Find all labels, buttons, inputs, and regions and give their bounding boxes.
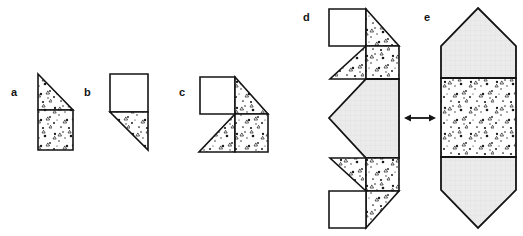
panel-b-shape: [110, 74, 148, 150]
d-triangle-bottom-right: [366, 191, 399, 228]
c-square-top-left: [200, 77, 235, 114]
a-triangle-top: [38, 74, 73, 110]
panel-a-shape: [38, 74, 73, 150]
e-pentagon-top: [441, 8, 516, 78]
panel-d-net: [329, 9, 399, 228]
figure-label-a: a: [11, 87, 17, 98]
double-arrow-icon: [404, 115, 436, 122]
geometry-figure-canvas: [0, 0, 523, 236]
c-square-bottom-right: [235, 114, 268, 152]
d-square-lower-right: [366, 158, 399, 191]
e-pentagon-bottom: [441, 157, 516, 228]
panel-c-shape: [199, 77, 268, 152]
c-triangle-bottom-left: [199, 114, 235, 152]
d-triangle-lower-left: [330, 158, 366, 191]
d-triangle-top-right: [366, 9, 399, 46]
figure-root: a b c d e: [0, 0, 523, 236]
d-square-bottom-left: [329, 191, 366, 228]
d-triangle-upper-left: [330, 46, 366, 79]
panel-e-solid: [441, 8, 516, 228]
a-square-bottom: [38, 110, 73, 150]
d-square-top-left: [329, 9, 366, 46]
e-rectangle-middle: [441, 78, 516, 157]
d-pentagon-middle: [329, 79, 399, 158]
figure-label-d: d: [303, 12, 310, 23]
figure-label-e: e: [424, 12, 430, 23]
d-square-upper-right: [366, 46, 399, 79]
figure-label-b: b: [84, 87, 91, 98]
b-square-top: [110, 74, 148, 112]
c-triangle-top-right: [235, 77, 268, 114]
b-triangle-bottom: [110, 112, 148, 150]
figure-label-c: c: [179, 87, 185, 98]
